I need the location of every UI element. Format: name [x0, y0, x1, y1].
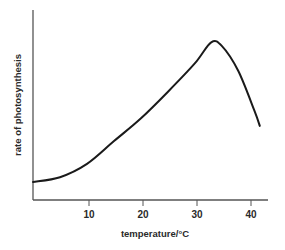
- x-tick-label: 20: [137, 209, 149, 220]
- x-tick-label: 40: [245, 209, 257, 220]
- x-ticks: 10203040: [83, 200, 257, 220]
- y-axis-label: rate of photosynthesis: [12, 54, 23, 156]
- photosynthesis-curve: [33, 41, 260, 182]
- x-axis-label: temperature/°C: [121, 228, 189, 239]
- chart: 10203040 temperature/°C rate of photosyn…: [0, 0, 285, 250]
- x-tick-label: 10: [83, 209, 95, 220]
- x-tick-label: 30: [191, 209, 203, 220]
